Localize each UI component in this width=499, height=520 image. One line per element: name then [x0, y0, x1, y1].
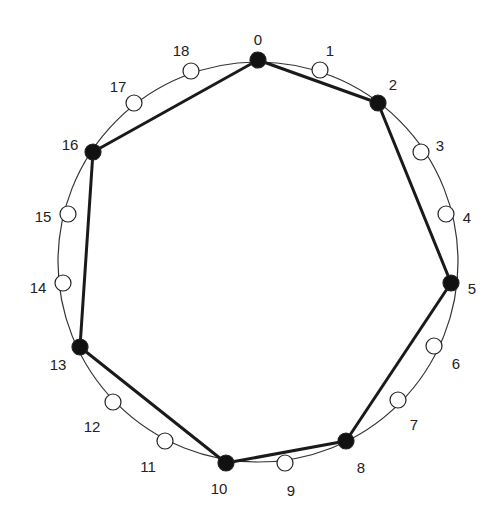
filled-node-13 — [72, 339, 88, 355]
filled-node-5 — [443, 275, 459, 291]
node-label-12: 12 — [84, 418, 101, 435]
node-label-17: 17 — [110, 78, 127, 95]
node-label-6: 6 — [452, 355, 460, 372]
node-label-13: 13 — [50, 356, 67, 373]
node-label-10: 10 — [211, 480, 228, 497]
edge-16-0 — [93, 60, 258, 152]
node-label-5: 5 — [468, 280, 476, 297]
empty-node-14 — [55, 275, 71, 291]
node-label-14: 14 — [30, 279, 47, 296]
filled-node-16 — [85, 144, 101, 160]
node-label-18: 18 — [173, 42, 190, 59]
circular-graph-diagram: 0123456789101112131415161718 — [0, 0, 499, 520]
node-label-11: 11 — [140, 458, 156, 475]
node-label-4: 4 — [463, 209, 471, 226]
empty-node-11 — [157, 433, 173, 449]
empty-node-9 — [277, 455, 293, 471]
empty-node-7 — [390, 392, 406, 408]
empty-node-1 — [312, 62, 328, 78]
node-label-15: 15 — [35, 208, 52, 225]
node-label-2: 2 — [389, 76, 397, 93]
node-label-16: 16 — [62, 136, 79, 153]
node-label-7: 7 — [410, 416, 418, 433]
filled-node-2 — [370, 95, 386, 111]
empty-node-17 — [126, 95, 142, 111]
node-label-3: 3 — [436, 137, 444, 154]
filled-node-0 — [250, 52, 266, 68]
node-label-1: 1 — [326, 42, 334, 59]
filled-node-8 — [338, 433, 354, 449]
filled-node-10 — [218, 455, 234, 471]
node-label-9: 9 — [287, 482, 295, 499]
node-label-0: 0 — [254, 31, 262, 48]
edge-13-16 — [80, 152, 93, 347]
empty-node-15 — [60, 206, 76, 222]
empty-node-6 — [426, 338, 442, 354]
edge-10-13 — [80, 347, 226, 463]
label-group: 0123456789101112131415161718 — [30, 31, 477, 499]
edge-5-8 — [346, 283, 451, 441]
node-label-8: 8 — [357, 459, 365, 476]
empty-node-12 — [105, 394, 121, 410]
empty-node-4 — [438, 206, 454, 222]
empty-node-18 — [183, 63, 199, 79]
edge-2-5 — [378, 103, 451, 283]
empty-node-3 — [413, 144, 429, 160]
node-group — [55, 52, 459, 471]
